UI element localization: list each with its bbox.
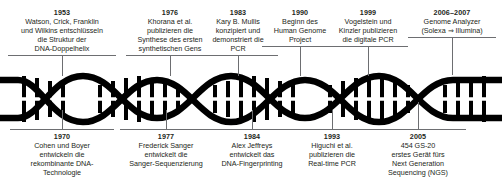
event-year: 1977 bbox=[118, 132, 214, 141]
event-leader-line bbox=[166, 110, 167, 129]
event-description: 454 GS-20 erstes Gerät fürs Next Generat… bbox=[368, 141, 468, 177]
event-leader-line bbox=[62, 110, 63, 129]
event-rule bbox=[208, 129, 296, 130]
timeline-event-bottom-2: 1977 Frederick Sanger entwickelt die San… bbox=[118, 110, 214, 168]
event-leader-line bbox=[332, 110, 333, 129]
event-leader-line bbox=[452, 38, 453, 75]
event-rule bbox=[292, 129, 372, 130]
event-description: Alex Jeffreys entwickelt das DNA-Fingerp… bbox=[206, 141, 298, 168]
event-description: Genome Analyzer (Solexa ⇒ Illumina) bbox=[406, 17, 498, 35]
event-year: 1984 bbox=[206, 132, 298, 141]
event-description: Higuchi et al. publizieren die Real-time… bbox=[290, 141, 374, 168]
timeline-event-top-6: 2006–2007 Genome Analyzer (Solexa ⇒ Illu… bbox=[406, 8, 498, 75]
event-leader-line bbox=[300, 47, 301, 76]
event-year: 1993 bbox=[290, 132, 374, 141]
event-year: 1999 bbox=[326, 8, 410, 17]
timeline-event-top-5: 1999 Vogelstein und Kinzler publizieren … bbox=[326, 8, 410, 76]
event-description: Vogelstein und Kinzler publizieren die d… bbox=[326, 17, 410, 44]
event-leader-line bbox=[62, 56, 63, 76]
event-year: 1953 bbox=[6, 8, 118, 17]
event-year: 2005 bbox=[368, 132, 468, 141]
event-leader-line bbox=[252, 110, 253, 129]
event-description: Watson, Crick, Franklin und Wilkins ents… bbox=[6, 17, 118, 53]
timeline-event-bottom-4: 1993 Higuchi et al. publizieren die Real… bbox=[290, 110, 374, 168]
timeline-event-bottom-3: 1984 Alex Jeffreys entwickelt das DNA-Fi… bbox=[206, 110, 298, 168]
event-year: 1970 bbox=[8, 132, 116, 141]
event-rule bbox=[120, 129, 212, 130]
dna-timeline-figure: 1953 Watson, Crick, Franklin und Wilkins… bbox=[0, 0, 502, 195]
event-rule bbox=[10, 129, 114, 130]
timeline-event-top-1: 1953 Watson, Crick, Franklin und Wilkins… bbox=[6, 8, 118, 76]
event-leader-line bbox=[170, 56, 171, 76]
event-year: 2006–2007 bbox=[406, 8, 498, 17]
timeline-event-bottom-1: 1970 Cohen und Boyer entwickeln die reko… bbox=[8, 110, 116, 177]
event-leader-line bbox=[418, 102, 419, 129]
event-description: Frederick Sanger entwickelt die Sanger-S… bbox=[118, 141, 214, 168]
timeline-event-bottom-5: 2005 454 GS-20 erstes Gerät fürs Next Ge… bbox=[368, 102, 468, 177]
event-leader-line bbox=[368, 47, 369, 76]
event-rule bbox=[370, 129, 466, 130]
event-leader-line bbox=[238, 56, 239, 76]
event-description: Cohen und Boyer entwickeln die rekombina… bbox=[8, 141, 116, 177]
